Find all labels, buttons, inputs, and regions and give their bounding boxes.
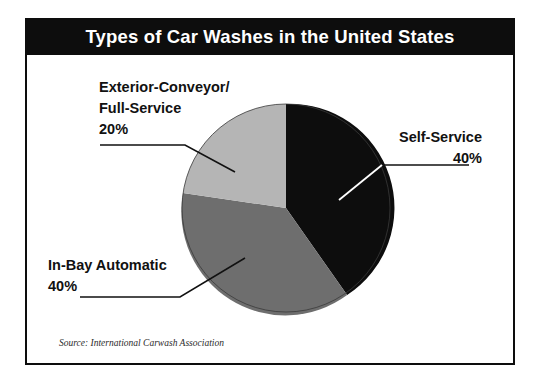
page-title: Types of Car Washes in the United States xyxy=(86,26,455,48)
pie-label-in-bay-automatic-line1: In-Bay Automatic xyxy=(48,257,167,273)
chart-title-band: Types of Car Washes in the United States xyxy=(25,18,515,55)
pie-label-exterior-conveyor: Exterior-Conveyor/ Full-Service 20% xyxy=(99,77,230,140)
pie-label-in-bay-automatic: In-Bay Automatic 40% xyxy=(48,255,167,297)
pie-label-self-service-percent: 40% xyxy=(399,148,482,169)
pie-label-self-service-line1: Self-Service xyxy=(399,129,482,145)
pie-label-exterior-conveyor-line1: Exterior-Conveyor/ xyxy=(99,79,230,95)
pie-label-exterior-conveyor-percent: 20% xyxy=(99,119,230,140)
pie-label-self-service: Self-Service 40% xyxy=(399,127,482,169)
pie-label-exterior-conveyor-line2: Full-Service xyxy=(99,100,181,116)
chart-figure: Types of Car Washes in the United States… xyxy=(0,0,540,382)
source-note: Source: International Carwash Associatio… xyxy=(59,338,224,348)
pie-label-in-bay-automatic-percent: 40% xyxy=(48,276,167,297)
plot-area: Exterior-Conveyor/ Full-Service 20% Self… xyxy=(25,55,515,365)
